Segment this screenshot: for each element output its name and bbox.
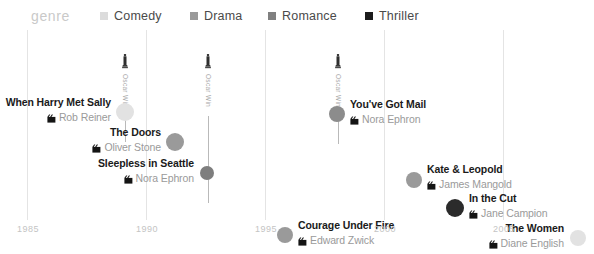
oscar-win-label: Oscar Win xyxy=(204,74,211,107)
film-director-row: Edward Zwick xyxy=(298,232,394,250)
film-director-row: Rob Reiner xyxy=(6,109,111,127)
film-point-dot[interactable] xyxy=(116,103,134,121)
film-point-dot[interactable] xyxy=(200,166,214,180)
film-director: Jane Campion xyxy=(481,208,548,220)
axis-tick-1985: 1985 xyxy=(17,224,39,234)
legend-item-label: Comedy xyxy=(114,9,162,23)
oscar-statuette-icon xyxy=(334,54,341,75)
legend-item-label: Drama xyxy=(204,9,243,23)
legend: genre ComedyDramaRomanceThriller xyxy=(0,0,594,30)
axis-tick-1990: 1990 xyxy=(136,224,158,234)
oscar-win-annotation: Oscar Win xyxy=(207,68,208,203)
film-title: In the Cut xyxy=(469,193,548,205)
film-director-row: Nora Ephron xyxy=(98,170,194,188)
axis-tick-1995: 1995 xyxy=(255,224,277,234)
clapperboard-icon xyxy=(92,139,101,157)
axis-tick-2005: 2005 xyxy=(493,224,515,234)
film-director: Diane English xyxy=(501,238,565,250)
plot-area: Oscar WinOscar WinOscar Win When Harry M… xyxy=(0,30,594,254)
film-title: You've Got Mail xyxy=(350,99,426,111)
clapperboard-icon xyxy=(427,176,436,194)
legend-swatch-icon xyxy=(190,12,198,20)
film-point-dot[interactable] xyxy=(277,227,293,243)
film-label[interactable]: You've Got MailNora Ephron xyxy=(350,99,426,129)
film-director-row: Oliver Stone xyxy=(92,139,161,157)
film-director: Edward Zwick xyxy=(310,235,374,247)
legend-title: genre xyxy=(31,8,70,24)
film-label[interactable]: In the CutJane Campion xyxy=(469,193,548,223)
legend-swatch-icon xyxy=(268,12,276,20)
legend-item-drama[interactable]: Drama xyxy=(190,9,243,23)
legend-item-thriller[interactable]: Thriller xyxy=(365,9,419,23)
clapperboard-icon xyxy=(298,232,307,250)
film-point-dot[interactable] xyxy=(166,133,184,151)
film-label[interactable]: Sleepless in SeattleNora Ephron xyxy=(98,158,194,188)
oscar-win-label: Oscar Win xyxy=(334,74,341,107)
film-director: James Mangold xyxy=(439,179,512,191)
clapperboard-icon xyxy=(350,111,359,129)
legend-item-label: Romance xyxy=(282,9,337,23)
clapperboard-icon xyxy=(489,235,498,253)
film-point-dot[interactable] xyxy=(570,230,586,246)
legend-swatch-icon xyxy=(365,12,373,20)
film-title: The Doors xyxy=(92,127,161,139)
film-label[interactable]: Kate & LeopoldJames Mangold xyxy=(427,164,512,194)
film-director: Nora Ephron xyxy=(362,114,420,126)
oscar-stem-line xyxy=(208,116,209,203)
oscar-statuette-icon xyxy=(204,54,211,75)
film-title: Sleepless in Seattle xyxy=(98,158,194,170)
clapperboard-icon xyxy=(124,170,133,188)
film-director-row: Nora Ephron xyxy=(350,111,426,129)
film-director: Oliver Stone xyxy=(104,142,161,154)
clapperboard-icon xyxy=(47,109,56,127)
legend-item-label: Thriller xyxy=(379,9,419,23)
film-title: When Harry Met Sally xyxy=(6,97,111,109)
gridline-1995 xyxy=(265,30,266,220)
legend-item-comedy[interactable]: Comedy xyxy=(100,9,162,23)
gridline-1990 xyxy=(146,30,147,220)
film-point-dot[interactable] xyxy=(446,199,464,217)
film-point-dot[interactable] xyxy=(329,106,345,122)
legend-item-romance[interactable]: Romance xyxy=(268,9,337,23)
film-director: Rob Reiner xyxy=(59,112,111,124)
film-label[interactable]: The DoorsOliver Stone xyxy=(92,127,161,157)
legend-swatch-icon xyxy=(100,12,108,20)
axis-tick-2000: 2000 xyxy=(374,224,396,234)
timeline-chart: genre ComedyDramaRomanceThriller Oscar W… xyxy=(0,0,594,254)
film-director-row: Diane English xyxy=(489,235,565,253)
film-label[interactable]: When Harry Met SallyRob Reiner xyxy=(6,97,111,127)
film-title: Kate & Leopold xyxy=(427,164,512,176)
oscar-statuette-icon xyxy=(121,54,128,75)
film-director: Nora Ephron xyxy=(136,173,194,185)
film-director-row: Jane Campion xyxy=(469,205,548,223)
film-director-row: James Mangold xyxy=(427,176,512,194)
film-point-dot[interactable] xyxy=(406,172,422,188)
clapperboard-icon xyxy=(469,205,478,223)
